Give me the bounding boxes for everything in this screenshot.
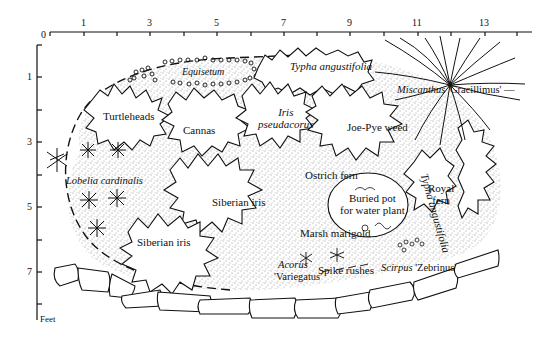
label-scirpus-cultivar: 'Zebrinus' — [413, 262, 457, 273]
label-iris-pseudacorus-line1: Iris — [258, 106, 314, 118]
label-miscanthus-cultivar: 'Gracillimus' — [445, 84, 501, 95]
x-tick-label-1: 1 — [81, 18, 86, 28]
label-iris-pseudacorus-line2: pseudacorus — [258, 118, 314, 130]
label-marsh-marigold: Marsh marigold — [300, 227, 371, 239]
x-tick-label-11: 11 — [412, 18, 422, 28]
label-buried-pot: Buried pot for water plant — [340, 192, 405, 216]
label-royal-fern: Royal fern — [428, 182, 454, 206]
label-acorus-line2: 'Variegatus' — [274, 271, 322, 283]
label-joe-pye-weed: Joe-Pye weed — [347, 121, 408, 133]
units-label: Feet — [40, 314, 56, 324]
left-axis — [37, 45, 42, 320]
x-tick-label-9: 9 — [347, 18, 352, 28]
label-miscanthus-genus: Miscanthus — [397, 84, 445, 95]
label-lobelia: Lobelia cardinalis — [66, 175, 143, 187]
label-ostrich-fern: Ostrich fern — [305, 169, 358, 181]
top-axis — [50, 32, 532, 36]
x-tick-label-13: 13 — [479, 18, 489, 28]
y-tick-label-1: 1 — [27, 72, 32, 82]
label-buried-pot-line1: Buried pot — [340, 192, 405, 204]
label-siberian-iris-2: Siberian iris — [137, 236, 190, 248]
label-typha-top: Typha angustifolia — [290, 60, 372, 72]
y-tick-label-5: 5 — [27, 202, 32, 212]
label-iris-pseudacorus: Iris pseudacorus — [258, 106, 314, 130]
label-siberian-iris-1: Siberian iris — [212, 196, 265, 208]
label-turtleheads: Turtleheads — [103, 110, 155, 122]
x-tick-label-5: 5 — [214, 18, 219, 28]
label-royal-fern-line1: Royal — [428, 182, 454, 194]
label-royal-fern-line2: fern — [428, 194, 454, 206]
label-buried-pot-line2: for water plant — [340, 204, 405, 216]
y-tick-label-7: 7 — [27, 267, 32, 277]
label-acorus: Acorus 'Variegatus' — [274, 259, 322, 283]
x-axis-origin-label: 0 — [41, 30, 46, 40]
x-tick-label-7: 7 — [281, 18, 286, 28]
label-cannas: Cannas — [183, 124, 215, 136]
label-spike-rushes: Spike rushes — [318, 264, 374, 276]
y-tick-label-3: 3 — [27, 137, 32, 147]
garden-plan-diagram — [0, 0, 555, 343]
label-equisetum: Equisetum — [182, 66, 224, 78]
label-acorus-line1: Acorus — [274, 259, 322, 271]
label-scirpus-genus: Scirpus — [381, 262, 413, 273]
x-tick-label-3: 3 — [147, 18, 152, 28]
label-scirpus: Scirpus 'Zebrinus' — [381, 262, 456, 274]
label-miscanthus: Miscanthus 'Gracillimus' — — [397, 84, 515, 96]
